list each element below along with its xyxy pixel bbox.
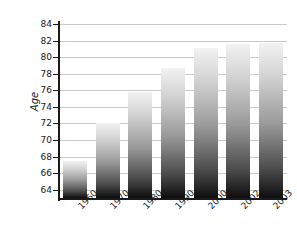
y-axis-tick-label: 70 xyxy=(26,136,52,145)
y-axis-tick-mark xyxy=(53,74,60,75)
y-axis-tick-mark xyxy=(53,90,60,91)
y-axis-tick-label: 76 xyxy=(26,86,52,95)
y-axis-tick-mark xyxy=(53,173,60,174)
y-axis-tick-label: 80 xyxy=(26,53,52,62)
bar-chart: Age 6466687072747678808284 1960197019801… xyxy=(0,0,297,249)
y-axis-tick-label: 72 xyxy=(26,119,52,128)
y-axis-tick-mark xyxy=(53,24,60,25)
y-axis-tick-mark xyxy=(53,157,60,158)
y-axis-tick-label: 78 xyxy=(26,70,52,79)
y-axis-tick-label: 84 xyxy=(26,20,52,29)
y-axis-tick-mark xyxy=(53,57,60,58)
bar[interactable] xyxy=(128,92,152,198)
y-axis-tick-mark xyxy=(53,140,60,141)
bar[interactable] xyxy=(259,43,283,198)
gridline xyxy=(59,41,287,42)
gridline xyxy=(59,57,287,58)
y-axis-tick-label: 68 xyxy=(26,153,52,162)
bar[interactable] xyxy=(161,68,185,198)
y-axis-tick-label: 74 xyxy=(26,103,52,112)
plot-area xyxy=(59,24,287,198)
y-axis-tick-mark xyxy=(53,107,60,108)
y-axis-tick-mark xyxy=(53,123,60,124)
bar[interactable] xyxy=(96,123,120,198)
y-axis-tick-labels: 6466687072747678808284 xyxy=(24,0,52,249)
y-axis-tick-label: 82 xyxy=(26,37,52,46)
bar[interactable] xyxy=(226,44,250,198)
y-axis-tick-mark xyxy=(53,41,60,42)
y-axis-tick-label: 66 xyxy=(26,169,52,178)
bar[interactable] xyxy=(194,48,218,198)
y-axis-tick-label: 64 xyxy=(26,186,52,195)
y-axis-tick-mark xyxy=(53,190,60,191)
gridline xyxy=(59,24,287,25)
bar[interactable] xyxy=(63,161,87,198)
